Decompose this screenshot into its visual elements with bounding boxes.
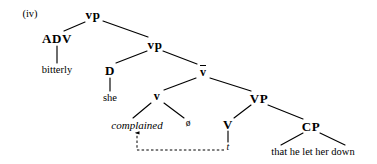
tree-node-clause: that he let her down [271,147,354,158]
tree-branch-lines [0,0,377,164]
tree-node-label: v [200,65,206,79]
tree-node-adv: ADV [42,32,72,45]
tree-branch [163,51,197,64]
tree-node-vp_top: vp [86,8,101,21]
tree-branch [210,78,251,91]
tree-node-vp_mid: vp [148,38,163,51]
tree-node-complained: complained [111,120,162,131]
tree-node-she: she [103,93,117,104]
tree-branch [133,103,151,118]
tree-node-null_obj: ø [186,119,191,129]
syntax-tree-figure: (iv) vpADVbitterlyvpDshevvcomplainedøVPV… [0,0,377,164]
tree-branch [164,103,184,118]
tree-branch [281,133,303,145]
tree-branch [103,21,148,37]
tree-node-cp: CP [302,120,321,133]
tree-node-bitterly: bitterly [42,65,72,76]
tree-branch [234,105,251,118]
tree-node-v_big: V [223,118,233,131]
tree-node-vp_big: VP [250,92,269,105]
example-label: (iv) [22,9,37,20]
tree-node-trace: t [227,142,230,152]
tree-branch [320,133,345,145]
tree-node-d: D [105,64,115,77]
tree-node-vbar: v [200,63,206,79]
movement-arrow [137,133,224,150]
tree-branch [268,105,303,119]
tree-branch [164,78,196,90]
tree-branch [116,51,147,63]
tree-node-v_small: v [154,90,160,102]
